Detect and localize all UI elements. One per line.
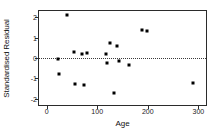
data-point [73, 51, 76, 54]
y-axis-title: Standardised Residual [1, 10, 12, 106]
data-point [113, 92, 116, 95]
x-tick-label: 300 [193, 108, 205, 115]
data-point [73, 82, 76, 85]
plot-inner: 210-1-20100200300 [39, 11, 206, 105]
data-point [145, 29, 148, 32]
data-point [105, 52, 108, 55]
scatter-chart: Standardised Residual 210-1-20100200300 … [0, 0, 220, 135]
y-tick-label: -2 [31, 95, 37, 102]
plot-area: 210-1-20100200300 [38, 10, 207, 106]
y-axis-title-text: Standardised Residual [2, 19, 11, 97]
data-point [86, 51, 89, 54]
y-tick-label: 1 [33, 34, 37, 41]
y-tick-label: -1 [31, 75, 37, 82]
data-point [57, 72, 60, 75]
y-tick-label: 0 [33, 55, 37, 62]
data-point [192, 81, 195, 84]
data-point [81, 52, 84, 55]
x-tick-label: 0 [45, 108, 49, 115]
data-point [65, 14, 68, 17]
zero-line [39, 58, 206, 59]
data-point [82, 83, 85, 86]
y-tick-label: 2 [33, 14, 37, 21]
data-point [128, 63, 131, 66]
data-point [140, 28, 143, 31]
data-point [118, 60, 121, 63]
x-axis-title: Age [38, 119, 207, 128]
x-tick-label: 100 [91, 108, 103, 115]
data-point [116, 45, 119, 48]
data-point [56, 58, 59, 61]
data-point [109, 42, 112, 45]
x-tick-label: 200 [142, 108, 154, 115]
data-point [106, 61, 109, 64]
